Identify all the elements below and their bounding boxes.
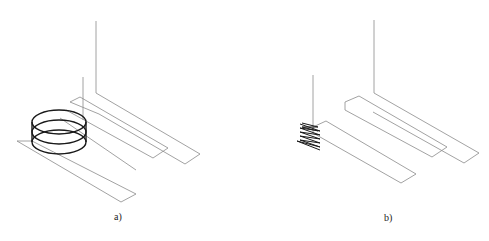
panel-b-caption: b)	[384, 212, 392, 223]
diagram-canvas	[0, 0, 489, 241]
panel-a-strip-3	[70, 21, 200, 164]
panel-b-winding	[297, 123, 320, 150]
panel-b-strip-3	[373, 20, 479, 163]
panel-b-strip-1	[313, 121, 416, 183]
panel-a-strip-1	[17, 141, 136, 202]
panel-a-caption: a)	[114, 211, 122, 222]
panel-b-drawing	[313, 20, 479, 183]
